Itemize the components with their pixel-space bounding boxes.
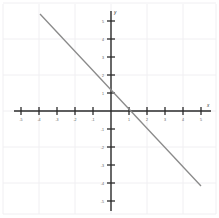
y-axis-label: y	[113, 10, 117, 15]
x-tick-label: 4	[182, 118, 184, 122]
x-tick-label: -4	[37, 118, 40, 122]
y-tick-label: 1	[102, 92, 104, 96]
y-tick-label: 2	[102, 74, 104, 78]
x-tick-label: -5	[19, 118, 22, 122]
y-tick-label: 3	[102, 56, 104, 60]
coordinate-plane-graph: -5 -4 -3 -2 -1 1 2 3 4 5 5 4 3 2 1 -1 -2…	[0, 0, 219, 218]
graph-canvas: -5 -4 -3 -2 -1 1 2 3 4 5 5 4 3 2 1 -1 -2…	[0, 0, 219, 218]
y-tick-label: 5	[102, 20, 104, 24]
y-tick-label: -5	[101, 200, 104, 204]
y-tick-label: -2	[101, 146, 104, 150]
y-tick-label: -3	[101, 164, 104, 168]
x-tick-label: 3	[164, 118, 166, 122]
line-y-equals-minus-x-plus-1	[40, 14, 201, 186]
x-tick-label: -3	[55, 118, 58, 122]
y-tick-label: 4	[102, 38, 104, 42]
axes	[14, 11, 211, 211]
y-tick-label: -4	[101, 182, 104, 186]
plotted-line-series	[40, 14, 201, 186]
y-tick-label: -1	[101, 128, 104, 132]
x-tick-label: 1	[128, 118, 130, 122]
x-tick-label: 5	[200, 118, 202, 122]
x-axis-label: x	[206, 103, 210, 108]
x-tick-label: -1	[91, 118, 94, 122]
x-tick-label: 2	[146, 118, 148, 122]
axis-name-labels: y x	[113, 10, 210, 108]
x-tick-label: -2	[73, 118, 76, 122]
y-axis-tick-labels: 5 4 3 2 1 -1 -2 -3 -4 -5	[101, 20, 104, 204]
